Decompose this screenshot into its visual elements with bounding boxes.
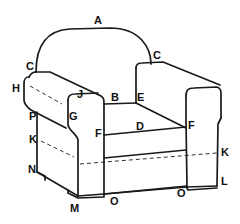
label-h: H (12, 82, 20, 94)
right-arm-front-left-edge (186, 96, 187, 188)
label-c-left: C (26, 60, 34, 72)
label-m: M (70, 202, 79, 214)
seat-width-dashed-line (80, 153, 217, 164)
label-f-right: F (188, 119, 195, 131)
left-arm-top-edge (29, 72, 36, 77)
right-arm-front-top (186, 87, 221, 118)
base-bottom-line (78, 186, 217, 196)
left-side-dashed-line (41, 141, 74, 157)
right-arm-top (136, 62, 220, 85)
label-j: J (77, 88, 83, 100)
label-a: A (94, 14, 102, 26)
label-n: N (28, 163, 36, 175)
label-k-left: K (29, 133, 37, 145)
seat-back-line (104, 103, 136, 104)
left-arm-depth-dashed-line (30, 86, 62, 104)
label-b: B (111, 91, 119, 103)
backrest-top-arch (36, 28, 151, 72)
label-g: G (69, 110, 78, 122)
left-arm-top (36, 72, 104, 104)
armchair-diagram: A C C H J B E P G D F F K K N L M O O (0, 0, 240, 224)
label-f-left: F (95, 127, 102, 139)
label-o-left: O (110, 195, 119, 207)
right-foot (187, 188, 217, 190)
label-o-right: O (177, 187, 186, 199)
label-d: D (136, 120, 144, 132)
label-l: L (221, 175, 228, 187)
seat-cushion-top-front (104, 127, 186, 135)
label-e: E (137, 91, 144, 103)
label-c-right: C (153, 49, 161, 61)
label-k-right: K (221, 146, 229, 158)
label-p: P (29, 110, 36, 122)
